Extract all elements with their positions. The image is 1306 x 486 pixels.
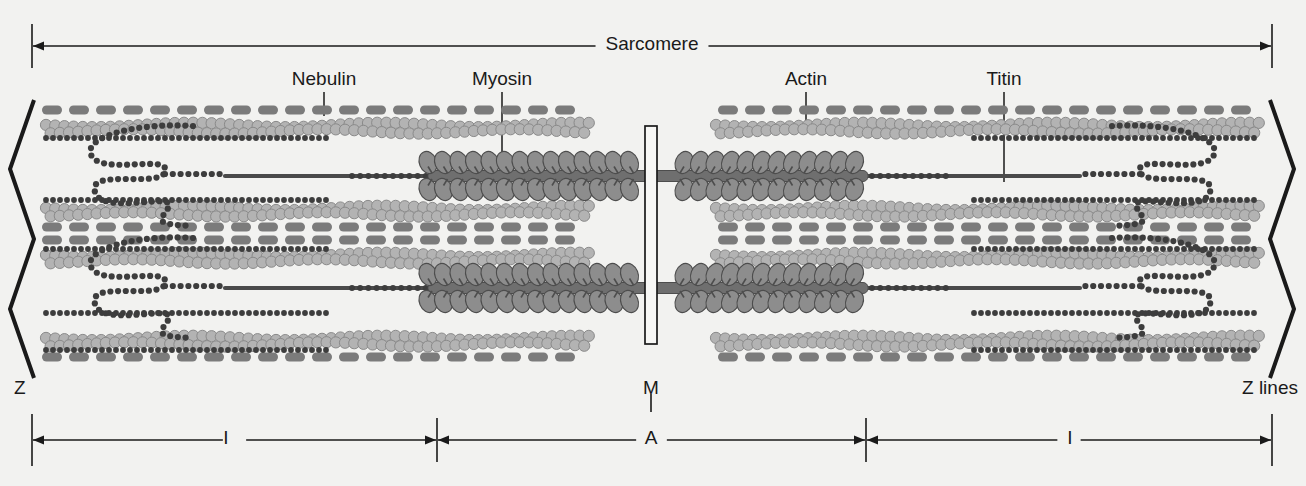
z-line-left xyxy=(10,100,34,378)
nebulin-dotted-track xyxy=(43,135,329,141)
nebulin-dotted-track xyxy=(971,246,1257,252)
titin-label: Titin xyxy=(986,68,1021,90)
myosin-label: Myosin xyxy=(472,68,532,90)
nebulin-dotted-track xyxy=(43,197,329,203)
i-band-right-label: I xyxy=(1067,427,1072,449)
sarcomere-label: Sarcomere xyxy=(606,33,699,55)
nebulin-band xyxy=(42,353,575,362)
titin-tail xyxy=(162,283,223,289)
nebulin-dotted-track xyxy=(971,347,1257,353)
nebulin-dotted-track xyxy=(43,347,329,353)
i-band-left-label: I xyxy=(223,427,228,449)
nebulin-dotted-track xyxy=(971,197,1257,203)
nebulin-dotted-track xyxy=(971,135,1257,141)
m-line xyxy=(645,126,657,344)
titin-tail xyxy=(162,171,223,177)
sarcomere-diagram xyxy=(0,0,1306,486)
titin-tail xyxy=(1082,171,1143,177)
z-line-right xyxy=(1270,100,1294,378)
nebulin-band xyxy=(718,223,1251,232)
nebulin-label: Nebulin xyxy=(292,68,356,90)
nebulin-dotted-track xyxy=(43,246,329,252)
actin-label: Actin xyxy=(785,68,827,90)
a-band-label: A xyxy=(645,427,658,449)
titin-tail xyxy=(1082,283,1143,289)
nebulin-band xyxy=(718,353,1251,362)
nebulin-dotted-track xyxy=(43,310,329,316)
z-lines-right-label: Z lines xyxy=(1242,377,1298,399)
nebulin-band xyxy=(42,106,575,115)
nebulin-band xyxy=(718,106,1251,115)
z-line-left-label: Z xyxy=(14,377,26,399)
nebulin-band xyxy=(42,223,575,232)
m-line-label: M xyxy=(643,377,659,399)
nebulin-dotted-track xyxy=(971,310,1257,316)
